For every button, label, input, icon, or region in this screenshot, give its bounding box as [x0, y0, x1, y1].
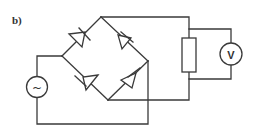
bridge-rectifier-diagram: b) ~ V [0, 0, 253, 129]
resistor-icon [182, 38, 196, 72]
figure-label: b) [12, 14, 22, 27]
ac-source-wiring [37, 56, 148, 124]
svg-text:V: V [227, 49, 235, 61]
bridge-wires [62, 17, 148, 100]
ac-source-icon: ~ [27, 77, 48, 98]
svg-text:~: ~ [32, 81, 42, 95]
voltmeter-icon: V [220, 43, 242, 65]
